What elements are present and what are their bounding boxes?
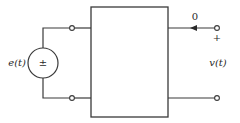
input-terminal-bottom xyxy=(70,96,75,101)
current-label: 0 xyxy=(192,11,198,22)
output-plus-label: + xyxy=(213,32,221,43)
source-bottom-wire xyxy=(43,78,72,98)
source-polarity-symbol: ± xyxy=(39,57,47,68)
output-terminal-top xyxy=(215,26,220,31)
output-voltage-label: v(t) xyxy=(209,57,227,68)
input-terminal-top xyxy=(70,26,75,31)
source-label: e(t) xyxy=(8,57,26,68)
current-arrow-icon xyxy=(190,25,197,31)
output-terminal-bottom xyxy=(215,96,220,101)
circuit-diagram: ± e(t) 0 + v(t) xyxy=(0,0,240,123)
source-top-wire xyxy=(43,28,72,48)
network-box xyxy=(91,7,168,117)
